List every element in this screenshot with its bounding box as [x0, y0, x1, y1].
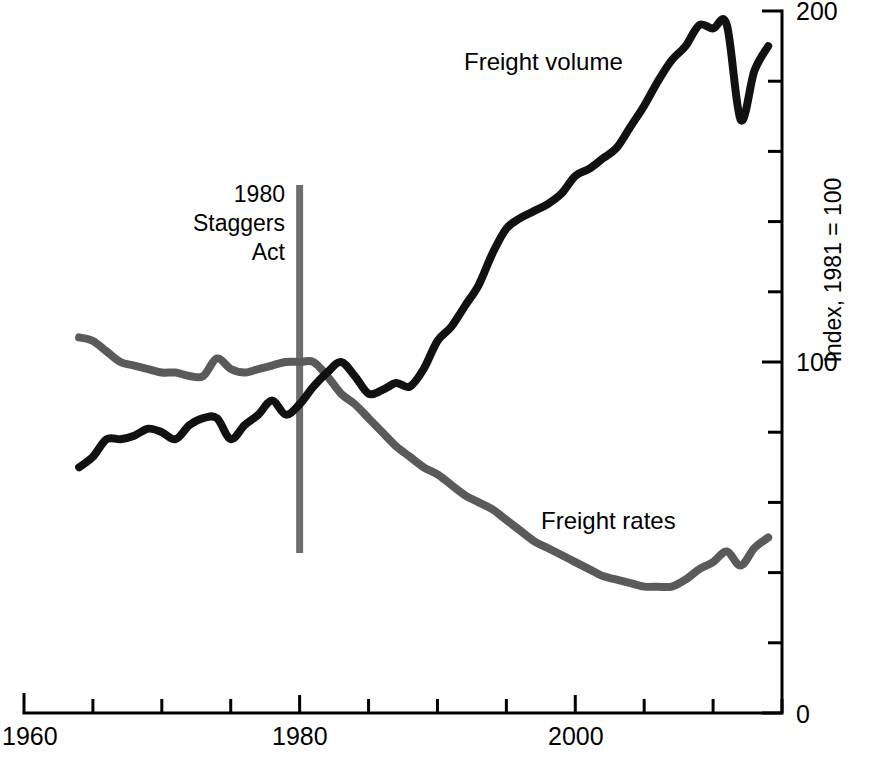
- staggers-act-annotation: 1980 Staggers Act: [140, 180, 285, 267]
- annotation-line-staggers: Staggers: [140, 209, 285, 238]
- annotation-line-year: 1980: [140, 180, 285, 209]
- series-label-freight-volume: Freight volume: [464, 48, 623, 76]
- annotation-line-act: Act: [140, 238, 285, 267]
- y-tick-label-0: 0: [796, 700, 810, 729]
- chart-axes: [24, 11, 782, 713]
- chart-series: [79, 19, 768, 587]
- chart-plot-area: [0, 0, 881, 767]
- series-label-freight-rates: Freight rates: [541, 507, 676, 535]
- y-tick-label-200: 200: [796, 0, 838, 26]
- chart-container: 1960 1980 2000 200 100 0 Index, 1981 = 1…: [0, 0, 881, 767]
- x-tick-label-1960: 1960: [2, 722, 58, 751]
- y-axis-title: Index, 1981 = 100: [820, 170, 847, 370]
- chart-ticks: [24, 11, 782, 713]
- x-tick-label-2000: 2000: [548, 722, 604, 751]
- x-tick-label-1980: 1980: [272, 722, 328, 751]
